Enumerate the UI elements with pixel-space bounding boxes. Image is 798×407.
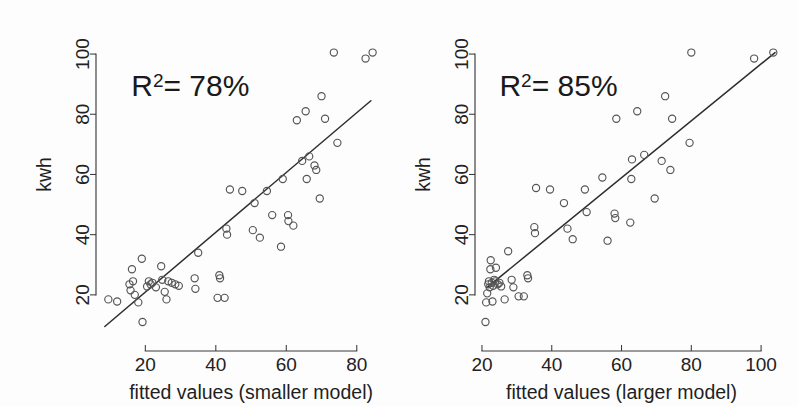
scatter-plot-left: 20406080100kwh20406080fitted values (sma… <box>0 0 399 407</box>
data-point <box>508 276 515 283</box>
data-point <box>604 237 611 244</box>
data-point <box>214 294 221 301</box>
data-point <box>221 294 228 301</box>
x-axis-title: fitted values (larger model) <box>506 381 737 403</box>
data-point <box>128 266 135 273</box>
data-point <box>581 186 588 193</box>
scatter-panel-smaller-model: 20406080100kwh20406080fitted values (sma… <box>0 0 399 407</box>
data-point <box>161 288 168 295</box>
data-point <box>131 291 138 298</box>
r-squared-value: = 85% <box>532 69 618 102</box>
data-point <box>318 93 325 100</box>
x-tick-label-40: 40 <box>541 354 562 375</box>
r-squared-base: R <box>499 69 521 102</box>
figure-container: 20406080100kwh20406080fitted values (sma… <box>0 0 798 407</box>
data-point <box>627 219 634 226</box>
x-axis-title: fitted values (smaller model) <box>129 381 373 403</box>
x-tick-label-20: 20 <box>135 354 156 375</box>
regression-line <box>105 101 371 327</box>
x-tick-label-80: 80 <box>346 354 367 375</box>
data-point <box>641 151 648 158</box>
data-point <box>195 249 202 256</box>
y-tick-label-100: 100 <box>452 38 473 70</box>
data-point <box>321 115 328 122</box>
data-point <box>158 263 165 270</box>
y-tick-label-60: 60 <box>73 164 94 185</box>
data-point <box>293 117 300 124</box>
y-tick-label-40: 40 <box>452 224 473 245</box>
data-point <box>651 195 658 202</box>
data-point <box>510 284 517 291</box>
data-point <box>546 186 553 193</box>
r-squared-annotation: R2= 78% <box>131 69 249 102</box>
data-point <box>362 55 369 62</box>
data-point <box>163 296 170 303</box>
data-point <box>505 248 512 255</box>
data-point <box>520 293 527 300</box>
x-tick-label-60: 60 <box>276 354 297 375</box>
data-point <box>628 156 635 163</box>
data-point <box>662 93 669 100</box>
y-tick-label-20: 20 <box>452 284 473 305</box>
data-point <box>290 222 297 229</box>
data-point <box>564 225 571 232</box>
data-point <box>303 175 310 182</box>
data-point <box>249 227 256 234</box>
data-point <box>139 318 146 325</box>
data-point <box>532 184 539 191</box>
data-point <box>279 175 286 182</box>
data-point <box>487 257 494 264</box>
data-point <box>277 243 284 250</box>
data-point <box>330 49 337 56</box>
data-point <box>612 215 619 222</box>
data-point <box>634 108 641 115</box>
plot-group: 20406080100kwh20406080100fitted values (… <box>412 38 777 403</box>
data-point <box>369 49 376 56</box>
data-point <box>135 299 142 306</box>
scatter-plot-right: 20406080100kwh20406080100fitted values (… <box>399 0 798 407</box>
plot-group: 20406080100kwh20406080fitted values (sma… <box>33 38 376 403</box>
data-point <box>686 139 693 146</box>
data-point <box>251 199 258 206</box>
data-point <box>583 208 590 215</box>
data-point <box>667 166 674 173</box>
scatter-panel-larger-model: 20406080100kwh20406080100fitted values (… <box>399 0 798 407</box>
data-point <box>226 186 233 193</box>
data-point <box>770 49 777 56</box>
data-point <box>658 157 665 164</box>
data-point <box>313 166 320 173</box>
data-point <box>669 115 676 122</box>
data-point <box>569 236 576 243</box>
data-point <box>688 49 695 56</box>
y-tick-label-60: 60 <box>452 164 473 185</box>
data-point <box>599 174 606 181</box>
data-point <box>751 55 758 62</box>
data-point <box>256 234 263 241</box>
data-point <box>114 298 121 305</box>
x-tick-label-100: 100 <box>745 354 777 375</box>
data-point <box>191 275 198 282</box>
r-squared-exponent: 2 <box>153 70 164 91</box>
data-point <box>560 199 567 206</box>
r-squared-base: R <box>131 69 153 102</box>
r-squared-annotation: R2= 85% <box>499 69 617 102</box>
y-tick-label-80: 80 <box>73 104 94 125</box>
data-point <box>613 115 620 122</box>
data-point <box>239 187 246 194</box>
y-tick-label-40: 40 <box>73 224 94 245</box>
data-point <box>316 195 323 202</box>
y-axis-title: kwh <box>33 157 55 192</box>
x-tick-label-80: 80 <box>681 354 702 375</box>
data-point <box>192 285 199 292</box>
x-tick-label-40: 40 <box>205 354 226 375</box>
data-point <box>311 162 318 169</box>
data-point <box>302 108 309 115</box>
data-point <box>269 211 276 218</box>
data-point <box>334 139 341 146</box>
r-squared-exponent: 2 <box>521 70 532 91</box>
data-point <box>628 175 635 182</box>
r-squared-value: = 78% <box>163 69 249 102</box>
y-axis-title: kwh <box>412 157 434 192</box>
data-point <box>501 296 508 303</box>
x-tick-label-60: 60 <box>611 354 632 375</box>
